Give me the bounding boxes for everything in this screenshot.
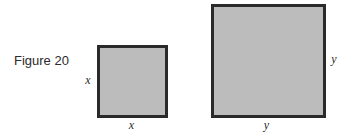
- large-square-y: [211, 4, 326, 118]
- small-square-bottom-side-label: x: [129, 119, 134, 131]
- figure-caption: Figure 20: [14, 53, 69, 69]
- large-square-bottom-side-label: y: [264, 119, 269, 131]
- large-square-right-side-label: y: [331, 53, 336, 65]
- small-square-left-side-label: x: [85, 74, 90, 86]
- small-square-x: [97, 45, 168, 118]
